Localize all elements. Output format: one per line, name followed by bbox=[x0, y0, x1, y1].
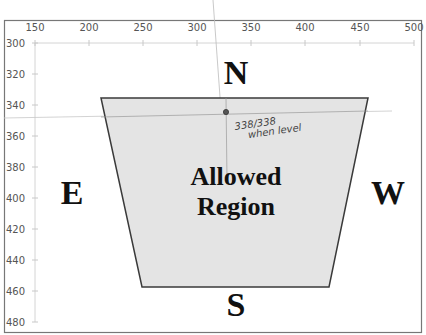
y-tick-label: 440 bbox=[6, 255, 25, 266]
y-tick-label: 380 bbox=[6, 162, 25, 173]
allowed-region-label: Allowed Region bbox=[191, 162, 282, 222]
y-tick-label: 360 bbox=[6, 131, 25, 142]
x-tick-label: 150 bbox=[25, 22, 44, 33]
chart-area: 150200250300350400450500 300320340360380… bbox=[0, 0, 426, 335]
west-label: W bbox=[371, 176, 405, 210]
y-tick-label: 300 bbox=[6, 38, 25, 49]
x-tick-label: 200 bbox=[79, 22, 98, 33]
region-label-line2: Region bbox=[191, 192, 282, 222]
north-label: N bbox=[224, 56, 249, 90]
x-tick-label: 300 bbox=[187, 22, 206, 33]
east-label: E bbox=[61, 176, 84, 210]
y-tick-label: 340 bbox=[6, 100, 25, 111]
x-tick-label: 450 bbox=[350, 22, 369, 33]
region-label-line1: Allowed bbox=[191, 162, 282, 192]
y-tick-label: 460 bbox=[6, 286, 25, 297]
x-tick-label: 500 bbox=[404, 22, 423, 33]
x-tick-label: 400 bbox=[295, 22, 314, 33]
y-tick-label: 420 bbox=[6, 224, 25, 235]
y-tick-label: 320 bbox=[6, 69, 25, 80]
y-tick-label: 480 bbox=[6, 317, 25, 328]
data-point-marker bbox=[223, 109, 228, 114]
south-label: S bbox=[227, 288, 246, 322]
x-tick-label: 250 bbox=[133, 22, 152, 33]
x-tick-label: 350 bbox=[241, 22, 260, 33]
y-tick-label: 400 bbox=[6, 193, 25, 204]
